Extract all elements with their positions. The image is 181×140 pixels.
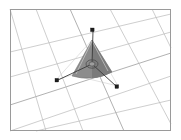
axis-handle-left[interactable]	[55, 78, 59, 82]
axis-handle-up[interactable]	[91, 28, 95, 32]
viewport-canvas[interactable]	[0, 0, 181, 140]
3d-viewport[interactable]	[0, 0, 181, 140]
axis-handle-right[interactable]	[115, 85, 119, 89]
gizmo-center-pivot[interactable]	[89, 62, 95, 66]
